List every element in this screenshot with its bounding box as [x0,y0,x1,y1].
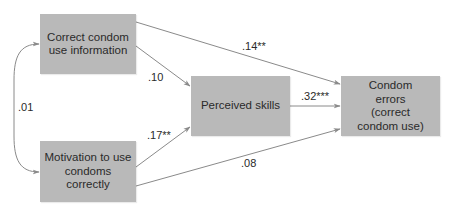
node-label: Condom errors (correct condom use) [355,79,426,133]
coefficient-information-skills: .10 [148,71,163,83]
node-perceived-skills: Perceived skills [191,76,290,136]
coefficient-correlation: .01 [18,101,33,113]
node-label: Motivation to use condoms correctly [44,151,132,192]
node-correct-condom-use-information: Correct condom use information [40,14,136,74]
node-label: Correct condom use information [44,31,132,58]
coefficient-motivation-errors: .08 [241,157,256,169]
coefficient-information-errors: .14** [242,40,266,52]
coefficient-skills-errors: .32*** [301,90,329,102]
path-diagram: Correct condom use information Motivatio… [0,0,452,214]
node-motivation-to-use-condoms-correctly: Motivation to use condoms correctly [40,141,136,202]
coefficient-motivation-skills: .17** [147,129,171,141]
edge-information-to-errors [136,22,340,84]
node-label: Perceived skills [201,99,280,113]
node-condom-errors: Condom errors (correct condom use) [341,76,440,136]
